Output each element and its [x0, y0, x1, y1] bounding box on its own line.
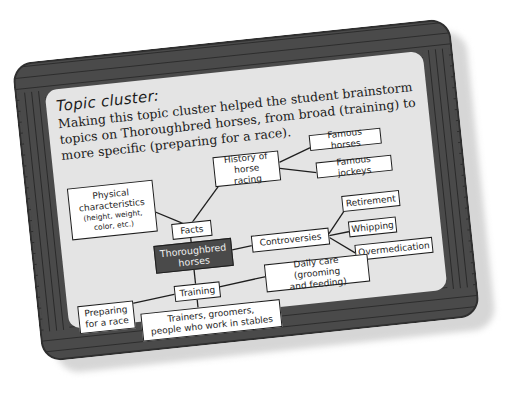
node-label: Whipping [351, 219, 394, 234]
node-label: Facts [180, 223, 204, 236]
node-physical-characteristics: Physical characteristics (height, weight… [67, 180, 158, 241]
node-label: Retirement [345, 193, 396, 209]
node-famous-horses: Famous horses [309, 128, 382, 151]
node-preparing-for-a-race: Preparing for a race [77, 300, 136, 334]
node-label: Controversies [259, 231, 322, 248]
chalkboard-frame: Topic cluster: Making this topic cluster… [12, 18, 481, 362]
diagram-panel: Topic cluster: Making this topic cluster… [44, 51, 447, 329]
node-label: Training [179, 284, 215, 299]
node-history-of-horse-racing: History of horse racing [212, 150, 281, 187]
node-label: horses [178, 254, 210, 268]
